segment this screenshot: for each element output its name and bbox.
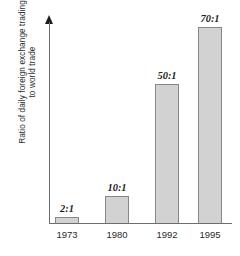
x-tick-label-1973: 1973: [45, 229, 89, 240]
bar-value-1973: 2:1: [60, 203, 74, 214]
bar-1995[interactable]: [198, 27, 222, 223]
bar-value-1995: 70:1: [200, 13, 219, 24]
plot-area: 2:1 10:1 50:1 70:1: [0, 0, 240, 256]
x-tick-label-1980: 1980: [95, 229, 139, 240]
bar-1992[interactable]: [155, 84, 179, 223]
bar-chart: Ratio of daily foreign exchange trading …: [0, 0, 240, 256]
bar-value-1980: 10:1: [107, 182, 126, 193]
x-tick-label-1995: 1995: [188, 229, 232, 240]
bar-1980[interactable]: [105, 196, 129, 223]
bar-1973[interactable]: [55, 217, 79, 223]
x-tick-label-1992: 1992: [145, 229, 189, 240]
bar-value-1992: 50:1: [157, 70, 176, 81]
